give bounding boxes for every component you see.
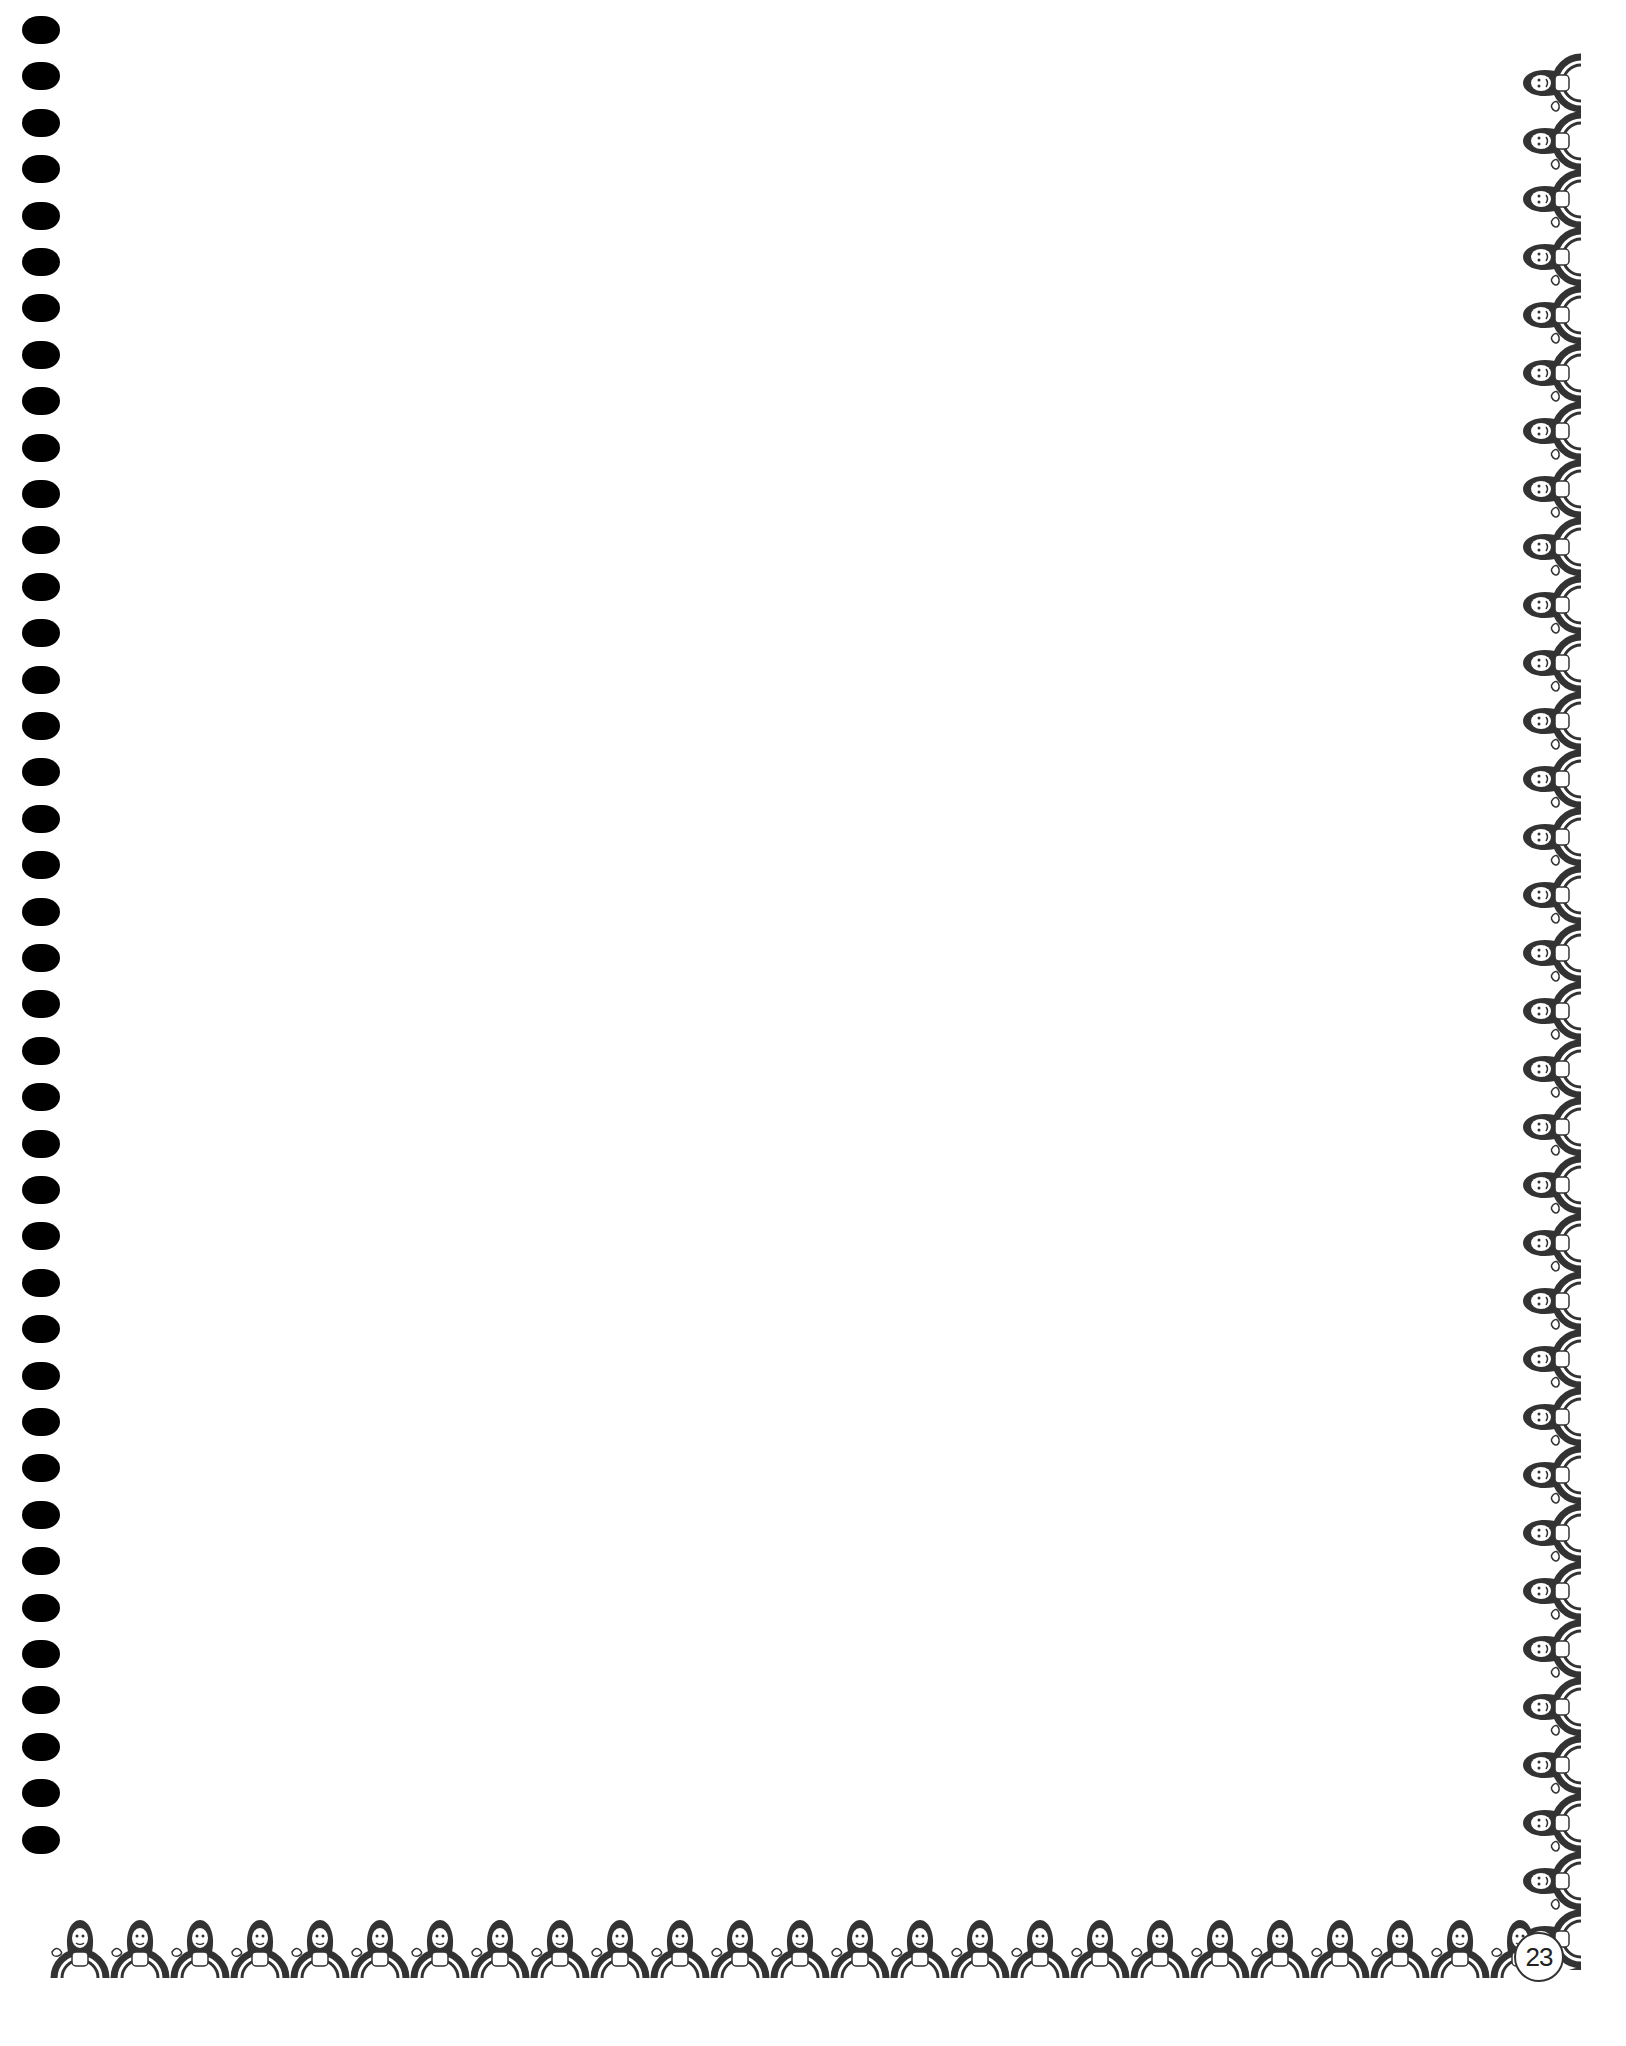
- border-ornament-icon: [1518, 340, 1592, 400]
- border-ornament-icon: [1010, 1912, 1070, 1978]
- binding-hole: [22, 1733, 60, 1761]
- border-ornament-icon: [1250, 1912, 1310, 1978]
- border-ornament-icon: [50, 1912, 110, 1978]
- binding-hole: [22, 294, 60, 322]
- binding-hole: [22, 851, 60, 879]
- border-ornament-icon: [350, 1912, 410, 1978]
- border-ornament-icon: [1518, 978, 1592, 1038]
- binding-hole: [22, 1130, 60, 1158]
- border-ornament-icon: [230, 1912, 290, 1978]
- border-ornament-icon: [1518, 572, 1592, 632]
- binding-hole: [22, 202, 60, 230]
- binding-hole: [22, 898, 60, 926]
- binding-hole: [22, 1037, 60, 1065]
- border-ornament-icon: [1518, 1384, 1592, 1444]
- border-ornament-icon: [1518, 804, 1592, 864]
- border-ornament-icon: [1518, 920, 1592, 980]
- binding-hole: [22, 480, 60, 508]
- decorative-border-bottom: [50, 1912, 1592, 1978]
- border-ornament-icon: [110, 1912, 170, 1978]
- binding-hole: [22, 573, 60, 601]
- border-ornament-icon: [1070, 1912, 1130, 1978]
- binding-hole: [22, 1640, 60, 1668]
- binding-hole: [22, 62, 60, 90]
- binding-hole: [22, 109, 60, 137]
- border-ornament-icon: [1518, 630, 1592, 690]
- binding-hole: [22, 1315, 60, 1343]
- border-ornament-icon: [1518, 50, 1592, 110]
- binding-hole: [22, 1547, 60, 1575]
- binding-hole: [22, 666, 60, 694]
- border-ornament-icon: [1518, 1094, 1592, 1154]
- border-ornament-icon: [1518, 1268, 1592, 1328]
- binding-hole: [22, 1686, 60, 1714]
- border-ornament-icon: [950, 1912, 1010, 1978]
- binding-hole: [22, 1269, 60, 1297]
- border-ornament-icon: [1518, 166, 1592, 226]
- border-ornament-icon: [1518, 1152, 1592, 1212]
- binding-hole: [22, 155, 60, 183]
- border-ornament-icon: [1518, 1674, 1592, 1734]
- border-ornament-icon: [1370, 1912, 1430, 1978]
- border-ornament-icon: [1430, 1912, 1490, 1978]
- border-ornament-icon: [1518, 1848, 1592, 1908]
- page-number: 23: [1514, 1932, 1564, 1982]
- border-ornament-icon: [1518, 456, 1592, 516]
- binding-hole: [22, 1501, 60, 1529]
- binding-hole: [22, 1083, 60, 1111]
- border-ornament-icon: [1518, 1790, 1592, 1850]
- border-ornament-icon: [650, 1912, 710, 1978]
- binding-hole: [22, 1362, 60, 1390]
- border-ornament-icon: [1518, 282, 1592, 342]
- binding-hole: [22, 387, 60, 415]
- border-ornament-icon: [1518, 1442, 1592, 1502]
- binding-hole: [22, 712, 60, 740]
- binding-hole: [22, 944, 60, 972]
- border-ornament-icon: [470, 1912, 530, 1978]
- border-ornament-icon: [770, 1912, 830, 1978]
- binding-hole: [22, 805, 60, 833]
- border-ornament-icon: [1518, 1500, 1592, 1560]
- border-ornament-icon: [1518, 688, 1592, 748]
- border-ornament-icon: [170, 1912, 230, 1978]
- border-ornament-icon: [1190, 1912, 1250, 1978]
- spiral-binding-holes: [0, 0, 70, 2046]
- border-ornament-icon: [1518, 1326, 1592, 1386]
- border-ornament-icon: [1518, 746, 1592, 806]
- border-ornament-icon: [1310, 1912, 1370, 1978]
- binding-hole: [22, 758, 60, 786]
- border-ornament-icon: [1518, 398, 1592, 458]
- binding-hole: [22, 1594, 60, 1622]
- binding-hole: [22, 1826, 60, 1854]
- border-ornament-icon: [1130, 1912, 1190, 1978]
- border-ornament-icon: [710, 1912, 770, 1978]
- border-ornament-icon: [1518, 108, 1592, 168]
- border-ornament-icon: [1518, 224, 1592, 284]
- border-ornament-icon: [1518, 514, 1592, 574]
- border-ornament-icon: [1518, 862, 1592, 922]
- binding-hole: [22, 1222, 60, 1250]
- binding-hole: [22, 16, 60, 44]
- decorative-border-right: [1518, 50, 1592, 1970]
- binding-hole: [22, 1454, 60, 1482]
- border-ornament-icon: [890, 1912, 950, 1978]
- binding-hole: [22, 248, 60, 276]
- binding-hole: [22, 1779, 60, 1807]
- border-ornament-icon: [290, 1912, 350, 1978]
- binding-hole: [22, 619, 60, 647]
- binding-hole: [22, 1408, 60, 1436]
- binding-hole: [22, 434, 60, 462]
- border-ornament-icon: [1518, 1616, 1592, 1676]
- blank-page-content-area: [70, 40, 1510, 1900]
- border-ornament-icon: [830, 1912, 890, 1978]
- border-ornament-icon: [590, 1912, 650, 1978]
- binding-hole: [22, 341, 60, 369]
- border-ornament-icon: [410, 1912, 470, 1978]
- binding-hole: [22, 990, 60, 1018]
- border-ornament-icon: [1518, 1732, 1592, 1792]
- border-ornament-icon: [530, 1912, 590, 1978]
- binding-hole: [22, 1176, 60, 1204]
- binding-hole: [22, 526, 60, 554]
- border-ornament-icon: [1518, 1036, 1592, 1096]
- border-ornament-icon: [1518, 1558, 1592, 1618]
